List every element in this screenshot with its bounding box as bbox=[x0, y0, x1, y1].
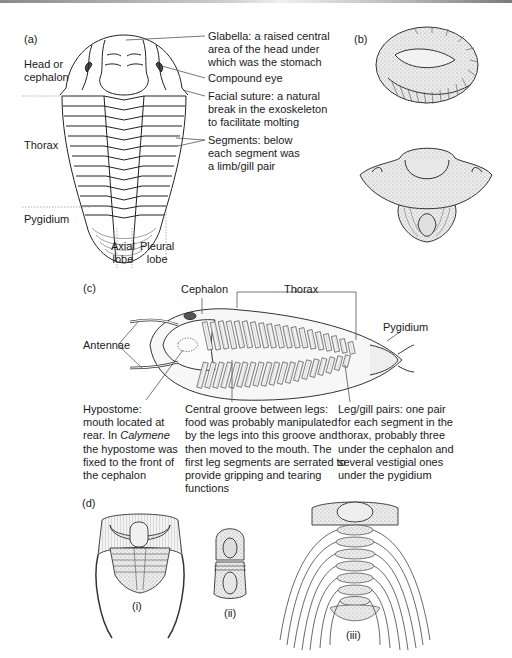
callout-facial-suture: Facial suture: a natural break in the ex… bbox=[208, 90, 327, 130]
note-text: rear. In bbox=[83, 429, 120, 441]
note-line: fixed to the front of bbox=[83, 456, 178, 469]
panel-c-ventral-trilobite bbox=[130, 309, 414, 400]
label-thorax: Thorax bbox=[24, 139, 58, 152]
note-line: thorax, probably three bbox=[338, 429, 454, 442]
label-c-antennae: Antennae bbox=[83, 339, 130, 352]
note-line: by the legs into this groove and bbox=[185, 429, 346, 442]
callout-line: Segments: below bbox=[208, 134, 300, 147]
panel-d-tag: (d) bbox=[82, 497, 95, 510]
note-line: Hypostome: bbox=[83, 403, 178, 416]
note-hypostome: Hypostome: mouth located at rear. In Cal… bbox=[83, 403, 178, 482]
note-line: then moved to the mouth. The bbox=[185, 443, 346, 456]
label-c-cephalon: Cephalon bbox=[181, 283, 228, 296]
note-line: under the pygidium bbox=[338, 469, 454, 482]
label-head: Head or cephalon bbox=[24, 58, 69, 84]
callout-line: each segment was bbox=[208, 147, 300, 160]
genus-name: Calymene bbox=[120, 429, 170, 441]
panel-c-tag: (c) bbox=[83, 282, 96, 295]
panel-d-iii-label: (iii) bbox=[346, 629, 361, 642]
callout-line: area of the head under bbox=[208, 43, 330, 56]
note-line: under the cephalon and bbox=[338, 443, 454, 456]
panel-d-i-trilobite bbox=[96, 514, 184, 638]
callout-line: Facial suture: a natural bbox=[208, 90, 327, 103]
note-line: rear. In Calymene bbox=[83, 429, 178, 442]
note-line: several vestigial ones bbox=[338, 456, 454, 469]
note-line: the cephalon bbox=[83, 469, 178, 482]
callout-line: which was the stomach bbox=[208, 56, 330, 69]
label-pleural-line: Pleural bbox=[140, 240, 174, 253]
note-line: mouth located at bbox=[83, 416, 178, 429]
note-leg-gill-pairs: Leg/gill pairs: one pair for each segmen… bbox=[338, 403, 454, 482]
label-axial-line: lobe bbox=[111, 253, 135, 266]
panel-d-ii-label: (ii) bbox=[224, 607, 236, 620]
label-c-thorax: Thorax bbox=[284, 283, 318, 296]
note-line: food was probably manipulated bbox=[185, 416, 346, 429]
note-line: first leg segments are serrated to bbox=[185, 456, 346, 469]
callout-segments: Segments: below each segment was a limb/… bbox=[208, 134, 300, 174]
label-axial-lobe: Axial lobe bbox=[111, 240, 135, 266]
callout-line: to facilitate molting bbox=[208, 116, 327, 129]
label-head-line: cephalon bbox=[24, 71, 69, 84]
panel-d-ii-trilobite bbox=[214, 529, 246, 599]
callout-line: Glabella: a raised central bbox=[208, 30, 330, 43]
label-pygidium: Pygidium bbox=[24, 213, 69, 226]
callout-line: a limb/gill pair bbox=[208, 160, 300, 173]
note-line: functions bbox=[185, 482, 346, 495]
callout-glabella: Glabella: a raised central area of the h… bbox=[208, 30, 330, 70]
label-head-line: Head or bbox=[24, 58, 69, 71]
label-c-pygidium: Pygidium bbox=[383, 321, 428, 334]
note-line: provide gripping and tearing bbox=[185, 469, 346, 482]
panel-d-i-label: (i) bbox=[132, 600, 142, 613]
label-pleural-lobe: Pleural lobe bbox=[140, 240, 174, 266]
note-central-groove: Central groove between legs: food was pr… bbox=[185, 403, 346, 495]
note-line: for each segment in the bbox=[338, 416, 454, 429]
panel-b-enrolled-trilobite bbox=[376, 27, 478, 104]
panel-a-tag: (a) bbox=[24, 33, 37, 46]
note-line: Leg/gill pairs: one pair bbox=[338, 403, 454, 416]
panel-b-front-view bbox=[360, 148, 492, 242]
note-line: the hypostome was bbox=[83, 443, 178, 456]
label-axial-line: Axial bbox=[111, 240, 135, 253]
panel-a-trilobite bbox=[60, 35, 188, 263]
callout-line: break in the exoskeleton bbox=[208, 103, 327, 116]
callout-compound-eye: Compound eye bbox=[208, 72, 283, 85]
label-pleural-line: lobe bbox=[140, 253, 174, 266]
note-line: Central groove between legs: bbox=[185, 403, 346, 416]
panel-d-iii-trilobite bbox=[280, 502, 430, 650]
panel-b-tag: (b) bbox=[354, 33, 367, 46]
